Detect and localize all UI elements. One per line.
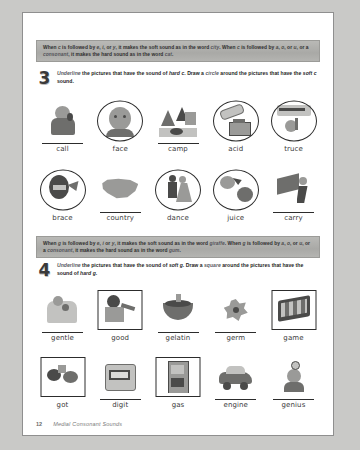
picture-label: truce [284, 145, 303, 153]
picture-artwork[interactable] [96, 99, 145, 142]
picture-artwork[interactable] [38, 99, 87, 142]
underline-mark [273, 212, 314, 213]
picture-artwork[interactable] [154, 288, 203, 331]
picture-cell[interactable]: digit [94, 355, 147, 409]
picture-label: genius [282, 401, 306, 409]
picture-cell[interactable]: brace [36, 168, 89, 222]
underline-placeholder [42, 399, 83, 400]
dancing-couple-illustration [159, 173, 197, 206]
picture-cell[interactable]: dance [152, 168, 205, 222]
juice-fruit-illustration [217, 173, 255, 206]
underline-mark [158, 143, 199, 144]
picture-cell[interactable]: truce [267, 99, 320, 153]
picture-artwork[interactable] [154, 99, 203, 142]
underline-mark [158, 332, 199, 333]
worksheet-page: When c is followed by e, i, or y, it mak… [22, 12, 334, 436]
picture-label: good [111, 334, 129, 342]
picture-artwork[interactable] [96, 288, 145, 331]
gas-pump-illustration [159, 360, 197, 393]
game-board-illustration [275, 293, 313, 326]
underline-placeholder [273, 143, 314, 144]
picture-artwork[interactable] [211, 288, 260, 331]
underline-placeholder [215, 212, 256, 213]
picture-artwork[interactable] [38, 288, 87, 331]
picture-cell[interactable]: got [36, 355, 89, 409]
picture-label: gentle [51, 334, 74, 342]
picture-artwork[interactable] [269, 288, 318, 331]
underline-mark [215, 332, 256, 333]
brace-teeth-illustration [44, 173, 82, 206]
picture-cell[interactable]: juice [209, 168, 262, 222]
underline-placeholder [100, 332, 141, 333]
rule-box-c: When c is followed by e, i, or y, it mak… [36, 40, 320, 62]
picture-label: digit [112, 401, 128, 409]
picture-label: game [283, 334, 303, 342]
picture-artwork[interactable] [154, 355, 203, 398]
picture-artwork[interactable] [211, 355, 260, 398]
picture-label: germ [226, 334, 245, 342]
underline-placeholder [100, 143, 141, 144]
picture-label: call [56, 145, 68, 153]
underline-mark [100, 212, 141, 213]
picture-artwork[interactable] [38, 355, 87, 398]
picture-artwork[interactable] [38, 168, 87, 211]
rule-box-g: When g is followed by e, i or y, it make… [36, 236, 320, 258]
page-footer: 12 Medial Consonant Sounds [36, 421, 320, 427]
underline-mark [42, 332, 83, 333]
picture-label: brace [52, 214, 72, 222]
got-hands-illustration [44, 360, 82, 393]
picture-artwork[interactable] [269, 355, 318, 398]
mother-child-illustration [44, 293, 82, 326]
underline-mark [215, 399, 256, 400]
picture-artwork[interactable] [211, 99, 260, 142]
picture-cell[interactable]: camp [152, 99, 205, 153]
picture-artwork[interactable] [211, 168, 260, 211]
picture-cell[interactable]: gas [152, 355, 205, 409]
car-engine-illustration [217, 360, 255, 393]
picture-cell[interactable]: carry [267, 168, 320, 222]
underline-placeholder [273, 332, 314, 333]
picture-cell[interactable]: genius [267, 355, 320, 409]
picture-cell[interactable]: engine [209, 355, 262, 409]
picture-label: juice [227, 214, 244, 222]
picture-row-c-2: bracecountry dance juice carry [36, 168, 320, 222]
underline-placeholder [42, 212, 83, 213]
picture-cell[interactable]: game [267, 288, 320, 342]
picture-cell[interactable]: call [36, 99, 89, 153]
picture-cell[interactable]: acid [209, 99, 262, 153]
rule-c-text: When c is followed by e, i, or y, it mak… [43, 45, 309, 57]
picture-artwork[interactable] [269, 168, 318, 211]
baby-face-illustration [101, 104, 139, 137]
activity-3-text: Underline the pictures that have the sou… [57, 70, 320, 85]
gelatin-bowl-illustration [159, 293, 197, 326]
picture-cell[interactable]: gentle [36, 288, 89, 342]
picture-cell[interactable]: germ [209, 288, 262, 342]
activity-4-directions: 4 Underline the pictures that have the s… [36, 262, 320, 277]
usa-map-illustration [101, 173, 139, 206]
picture-artwork[interactable] [269, 99, 318, 142]
picture-row-g-2: got digit gas engine genius [36, 355, 320, 409]
picture-label: gelatin [166, 334, 191, 342]
woman-calling-illustration [44, 104, 82, 137]
picture-cell[interactable]: gelatin [152, 288, 205, 342]
picture-artwork[interactable] [96, 355, 145, 398]
picture-label: face [113, 145, 128, 153]
picture-artwork[interactable] [154, 168, 203, 211]
activity-4-text: Underline the pictures that have the sou… [57, 262, 320, 277]
picture-label: camp [168, 145, 188, 153]
picture-cell[interactable]: country [94, 168, 147, 222]
truce-sign-illustration [275, 104, 313, 137]
underline-mark [273, 399, 314, 400]
picture-cell[interactable]: good [94, 288, 147, 342]
picture-label: acid [228, 145, 243, 153]
picture-label: dance [167, 214, 189, 222]
picture-label: carry [284, 214, 302, 222]
picture-label: country [107, 214, 134, 222]
picture-artwork[interactable] [96, 168, 145, 211]
rule-g-text: When g is followed by e, i or y, it make… [43, 241, 310, 253]
acid-beaker-illustration [217, 104, 255, 137]
activity-3-directions: 3 Underline the pictures that have the s… [36, 70, 320, 85]
underline-mark [42, 143, 83, 144]
picture-label: engine [224, 401, 248, 409]
picture-cell[interactable]: face [94, 99, 147, 153]
